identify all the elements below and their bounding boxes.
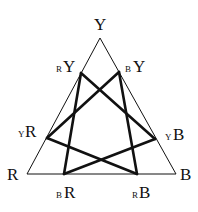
corner-label-y: Y (94, 15, 106, 34)
mixing-lines (47, 72, 155, 174)
color-triangle-diagram: Y R B R Y B Y Y R Y B B R R B (0, 0, 198, 212)
point-label-rb: R B (132, 183, 150, 202)
main: R (25, 122, 37, 141)
point-label-ry: R Y (56, 57, 75, 76)
main: B (173, 125, 184, 144)
line-by-yr (47, 72, 119, 138)
prefix: B (125, 64, 131, 74)
main: Y (133, 57, 145, 76)
main: Y (63, 57, 75, 76)
prefix: R (132, 190, 138, 200)
point-label-by: B Y (125, 57, 145, 76)
point-label-yr: Y R (18, 122, 37, 141)
outer-triangle (27, 38, 176, 174)
corner-label-b: B (180, 165, 191, 184)
line-yb-br (64, 139, 155, 174)
corner-label-r: R (7, 165, 19, 184)
main: R (64, 183, 76, 202)
point-label-yb: Y B (165, 125, 184, 144)
line-ry-br (64, 73, 81, 174)
point-label-br: B R (56, 183, 76, 202)
line-yr-rb (47, 138, 137, 174)
prefix: Y (18, 129, 25, 139)
prefix: R (56, 64, 62, 74)
prefix: B (56, 190, 62, 200)
prefix: Y (165, 132, 172, 142)
main: B (139, 183, 150, 202)
line-ry-yb (81, 73, 155, 139)
